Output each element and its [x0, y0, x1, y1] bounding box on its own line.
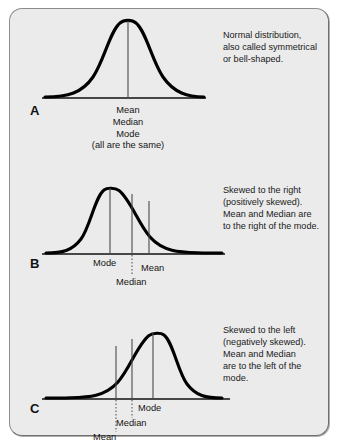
panel-letter-b: B: [30, 256, 40, 271]
right-skewed-curve: [46, 188, 222, 253]
panel-letter-c: C: [30, 401, 40, 416]
panel-c-mean-label: Mean: [93, 432, 116, 444]
panel-right-skewed-distribution: B Mode Mean Median Skewed to the right (…: [10, 159, 330, 304]
panel-a-caption: Normal distribution, also called symmetr…: [223, 29, 335, 65]
panel-c-mode-label: Mode: [138, 403, 161, 415]
left-skewed-curve: [46, 333, 222, 398]
panel-b-caption: Skewed to the right (positively skewed).…: [223, 184, 335, 232]
panel-b-median-label: Median: [116, 277, 147, 289]
figure-card: A Mean Median Mode (all are the same) No…: [9, 8, 329, 436]
panel-c-median-label: Median: [116, 418, 147, 430]
panel-normal-distribution: A Mean Median Mode (all are the same) No…: [10, 9, 330, 159]
panel-left-skewed-distribution: C Mode Median Mean Skewed to the left (n…: [10, 304, 330, 437]
panel-a-center-labels: Mean Median Mode (all are the same): [58, 105, 198, 152]
panel-c-caption: Skewed to the left (negatively skewed). …: [223, 324, 338, 384]
panel-b-mode-label: Mode: [93, 258, 116, 270]
panel-b-mean-label: Mean: [141, 263, 164, 275]
bell-curve: [45, 20, 204, 97]
panel-letter-a: A: [30, 103, 40, 118]
